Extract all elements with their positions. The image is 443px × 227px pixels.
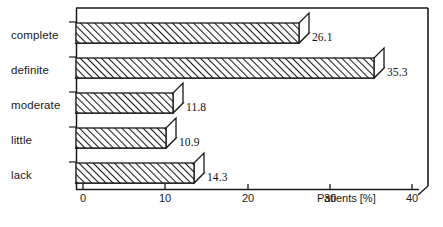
x-tick-label-40: 40 [406, 192, 418, 204]
x-axis [76, 184, 419, 190]
category-label-moderate: moderate [11, 99, 60, 111]
category-label-definite: definite [11, 64, 49, 76]
bar-complete [76, 13, 309, 43]
category-label-lack: lack [11, 169, 32, 181]
data-label-lack: 14.3 [207, 171, 228, 183]
data-label-moderate: 11.8 [186, 101, 206, 113]
chart-canvas [0, 0, 443, 227]
x-tick-label-0: 0 [80, 192, 86, 204]
x-tick-label-10: 10 [159, 192, 171, 204]
axis-floor-perspective [418, 186, 428, 195]
bar-little [76, 118, 176, 148]
category-label-complete: complete [11, 29, 58, 41]
data-label-definite: 35.3 [387, 66, 408, 78]
category-label-little: little [11, 134, 32, 146]
data-label-little: 10.9 [179, 136, 200, 148]
data-label-complete: 26.1 [312, 31, 333, 43]
bar-lack [76, 153, 204, 183]
bar-definite [76, 48, 384, 78]
bar-moderate [76, 83, 183, 113]
x-axis-title: Patients [%] [317, 192, 376, 204]
x-tick-label-20: 20 [242, 192, 254, 204]
bar-chart-figure: complete definite moderate little lack 2… [0, 0, 443, 227]
